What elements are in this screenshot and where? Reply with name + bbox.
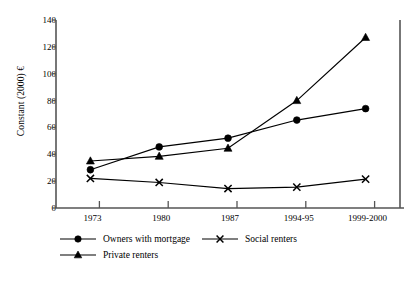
marker-circle (87, 166, 94, 173)
legend-label: Private renters (103, 249, 158, 261)
legend-label: Social renters (245, 233, 297, 245)
legend-marker-triangle-icon (58, 249, 98, 261)
x-tick-label: 1999-2000 (348, 212, 387, 224)
legend-item[interactable]: Social renters (200, 232, 297, 246)
marker-circle (156, 144, 163, 151)
x-tick-label: 1973 (83, 212, 101, 224)
marker-circle (362, 105, 369, 112)
x-tick-label: 1987 (221, 212, 239, 224)
legend-marker-x-icon (200, 233, 240, 245)
x-tick-label: 1994-95 (284, 212, 314, 224)
chart-legend: Owners with mortgageSocial rentersPrivat… (52, 232, 382, 266)
legend-item[interactable]: Owners with mortgage (58, 232, 190, 246)
marker-circle (293, 117, 300, 124)
x-axis-tick-labels: 1973198019871994-951999-2000 (0, 212, 418, 228)
chart-figure: Constant (2000) € 020406080100120140 197… (0, 0, 418, 283)
legend-item[interactable]: Private renters (58, 248, 158, 262)
marker-circle (225, 135, 232, 142)
marker-triangle (224, 144, 232, 151)
legend-marker-circle-icon (58, 233, 98, 245)
series-line (90, 178, 365, 188)
series-social-renters (87, 175, 369, 192)
series-owners-with-mortgage (87, 105, 369, 173)
series-private-renters (86, 33, 369, 164)
marker-circle (75, 236, 81, 242)
x-tick-label: 1980 (152, 212, 170, 224)
series-line (90, 37, 365, 161)
marker-triangle (362, 33, 370, 40)
legend-label: Owners with mortgage (103, 233, 190, 245)
